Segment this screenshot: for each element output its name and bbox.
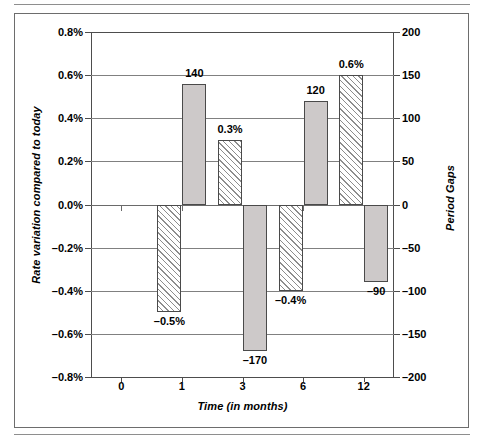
y-axis-right-tick — [394, 75, 400, 76]
y-axis-left-tick — [85, 32, 91, 33]
y-axis-right-tick-labels: 200150100500–50–100–150–200 — [402, 32, 452, 377]
data-label: –90 — [346, 285, 406, 297]
y-axis-left-tick — [85, 291, 91, 292]
y-axis-right-tick-label: –200 — [402, 371, 452, 383]
y-axis-left-tick-labels: 0.8%0.6%0.4%0.2%0.0%–0.2%–0.4%–0.6%–0.8% — [19, 32, 83, 377]
x-axis-tick-labels: 013612 — [91, 380, 394, 398]
bar-solid-6 — [304, 101, 328, 205]
bar-hatched-3 — [218, 140, 242, 205]
y-axis-left-tick-label: –0.4% — [23, 285, 83, 297]
gridline — [91, 32, 394, 33]
y-axis-right-tick-label: 50 — [402, 155, 452, 167]
y-axis-right-tick-label: –150 — [402, 328, 452, 340]
y-axis-right-tick — [394, 377, 400, 378]
y-axis-right-tick — [394, 205, 400, 206]
chart-figure: Rate variation compared to today Period … — [14, 13, 469, 428]
data-label: –0.5% — [139, 315, 199, 327]
bar-solid-1 — [182, 84, 206, 205]
y-axis-left-tick-label: 0.2% — [23, 155, 83, 167]
y-axis-left-tick — [85, 377, 91, 378]
y-axis-left-tick-label: 0.0% — [23, 199, 83, 211]
y-axis-left-tick — [85, 205, 91, 206]
bar-solid-12 — [364, 205, 388, 283]
y-axis-left-tick — [85, 248, 91, 249]
x-axis-tick-label: 3 — [223, 380, 263, 392]
y-axis-right-tick-label: 0 — [402, 199, 452, 211]
y-axis-left-tick-label: 0.8% — [23, 26, 83, 38]
y-axis-left-tick — [85, 75, 91, 76]
x-axis-tick-label: 1 — [162, 380, 202, 392]
x-axis-tick — [182, 205, 183, 211]
bar-solid-3 — [243, 205, 267, 352]
x-axis-tick-label: 0 — [101, 380, 141, 392]
y-axis-left-tick-label: –0.6% — [23, 328, 83, 340]
y-axis-right-tick-label: 100 — [402, 112, 452, 124]
y-axis-right-tick — [394, 32, 400, 33]
y-axis-right-tick-label: –100 — [402, 285, 452, 297]
bar-hatched-6 — [279, 205, 303, 291]
x-axis-title: Time (in months) — [15, 400, 470, 412]
data-label: 120 — [286, 84, 346, 96]
data-label: 140 — [164, 67, 224, 79]
x-axis-tick-label: 6 — [283, 380, 323, 392]
y-axis-left-tick-label: 0.4% — [23, 112, 83, 124]
y-axis-right-tick — [394, 248, 400, 249]
bar-hatched-1 — [157, 205, 181, 313]
y-axis-left-tick-label: –0.8% — [23, 371, 83, 383]
y-axis-left-tick — [85, 161, 91, 162]
x-axis-tick — [121, 205, 122, 211]
page-rule-bottom — [14, 434, 470, 435]
y-axis-right-tick-label: 200 — [402, 26, 452, 38]
y-axis-left-tick-label: –0.2% — [23, 242, 83, 254]
y-axis-right-tick-label: –50 — [402, 242, 452, 254]
data-label: –170 — [225, 354, 285, 366]
y-axis-right-tick — [394, 118, 400, 119]
y-axis-right-tick — [394, 161, 400, 162]
y-axis-right-tick-label: 150 — [402, 69, 452, 81]
y-axis-left-tick-label: 0.6% — [23, 69, 83, 81]
y-axis-left-tick — [85, 118, 91, 119]
y-axis-right-tick — [394, 334, 400, 335]
data-label: 0.6% — [321, 58, 381, 70]
data-label: 0.3% — [200, 123, 260, 135]
page-rule-top — [14, 4, 470, 5]
y-axis-left-tick — [85, 334, 91, 335]
plot-area: –0.5%0.3%–0.4%0.6%140–170120–90 — [91, 32, 394, 377]
x-axis-tick — [303, 205, 304, 211]
x-axis-tick-label: 12 — [344, 380, 384, 392]
data-label: –0.4% — [261, 294, 321, 306]
